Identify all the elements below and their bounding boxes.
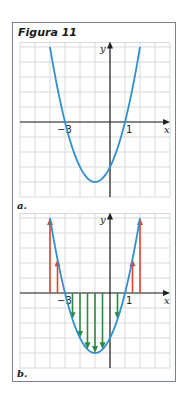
up-arrow-icon	[55, 259, 61, 293]
down-arrow-icon	[85, 293, 91, 349]
panel-label-b: b.	[17, 368, 27, 379]
x-axis-label: x	[164, 295, 170, 306]
up-arrow-icon	[130, 259, 136, 293]
y-axis-label: y	[99, 214, 106, 225]
down-arrow-icon	[100, 293, 106, 349]
x-tick-label: −3	[57, 295, 72, 306]
chart-b: xy−31	[0, 0, 189, 396]
x-tick-label: 1	[126, 295, 132, 306]
